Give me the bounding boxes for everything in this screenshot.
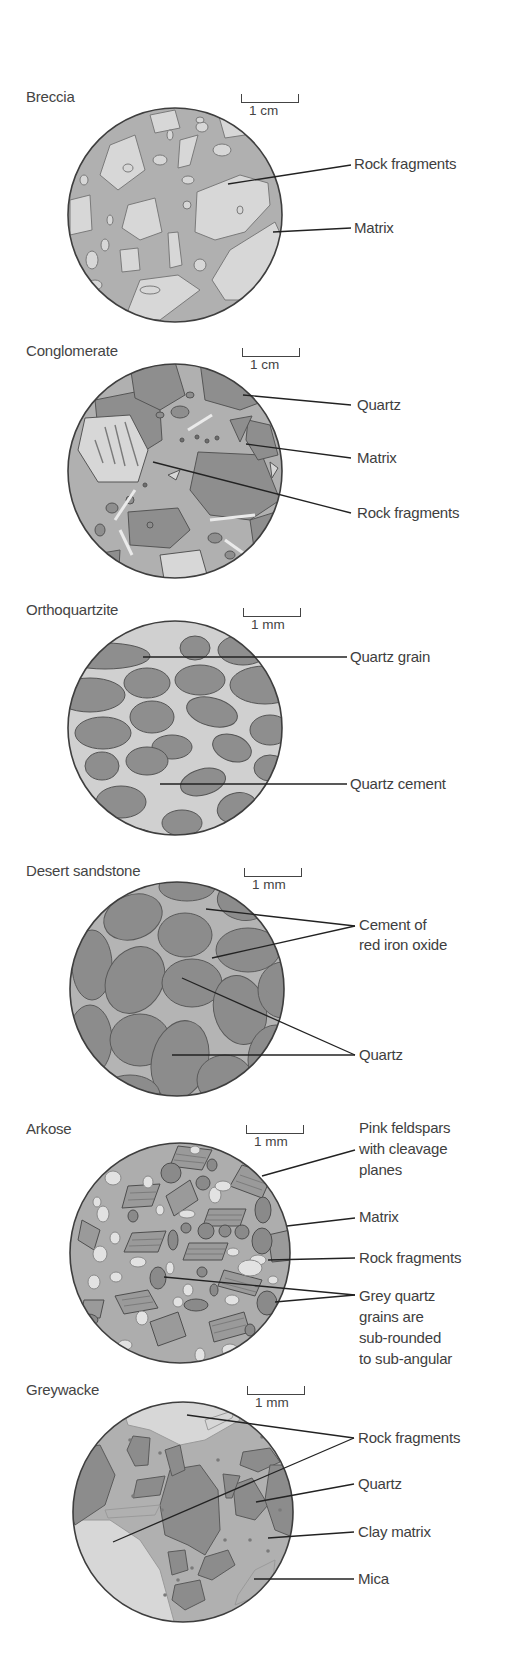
greywacke-thin-section: [0, 0, 508, 1665]
label-rock-fragments: Rock fragments: [358, 1428, 460, 1448]
panel-greywacke: Greywacke 1 mm: [0, 0, 508, 1665]
label-mica: Mica: [358, 1569, 389, 1589]
label-clay-matrix: Clay matrix: [358, 1522, 431, 1542]
label-quartz: Quartz: [358, 1474, 402, 1494]
